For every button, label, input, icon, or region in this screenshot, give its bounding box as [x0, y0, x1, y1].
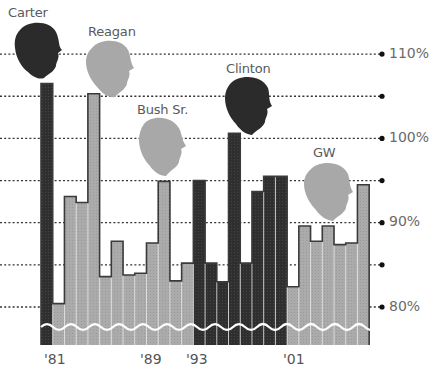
x-tick-81: '81 — [44, 351, 66, 367]
approval-bar-chart: Carter Reagan Bush Sr. Clinton GW 110% 1… — [0, 0, 440, 391]
bar — [135, 273, 147, 345]
bar — [193, 181, 205, 345]
bar — [264, 176, 276, 345]
chart-canvas — [0, 0, 440, 391]
bar — [170, 281, 182, 345]
y-tick-90: 90% — [389, 213, 420, 229]
president-label-gw: GW — [313, 145, 336, 160]
bar — [76, 202, 88, 345]
bar — [182, 263, 194, 345]
bar — [88, 94, 100, 345]
bar — [41, 84, 53, 345]
bar — [252, 192, 264, 345]
tick-dot — [379, 94, 384, 99]
bar — [100, 277, 112, 345]
carter-head-icon — [15, 23, 62, 79]
president-label-bush-sr: Bush Sr. — [137, 102, 188, 117]
tick-dot — [379, 262, 384, 267]
bar — [205, 263, 217, 345]
tick-dot — [379, 220, 384, 225]
y-tick-80: 80% — [389, 298, 420, 314]
tick-dot — [379, 304, 384, 309]
y-tick-100: 100% — [389, 129, 429, 145]
x-tick-01: '01 — [283, 351, 305, 367]
bar — [123, 275, 135, 345]
reagan-head-icon — [86, 41, 134, 97]
bar — [217, 282, 229, 345]
president-label-carter: Carter — [8, 5, 48, 20]
president-label-clinton: Clinton — [226, 61, 270, 76]
bar — [240, 263, 252, 345]
x-tick-93: '93 — [186, 351, 208, 367]
clinton-head-icon — [225, 77, 272, 135]
tick-dot — [379, 136, 384, 141]
bar — [158, 181, 170, 345]
bar — [287, 287, 299, 345]
gw-head-icon — [304, 163, 353, 221]
bar — [53, 304, 65, 345]
bar — [111, 241, 123, 345]
tick-dot — [379, 52, 384, 57]
bar — [64, 197, 76, 345]
x-tick-89: '89 — [140, 351, 162, 367]
bar — [229, 133, 241, 345]
bar — [275, 176, 287, 345]
tick-dot — [379, 178, 384, 183]
president-label-reagan: Reagan — [88, 24, 136, 39]
bush-sr-head-icon — [139, 118, 186, 176]
y-tick-110: 110% — [389, 45, 429, 61]
bar — [357, 185, 369, 345]
